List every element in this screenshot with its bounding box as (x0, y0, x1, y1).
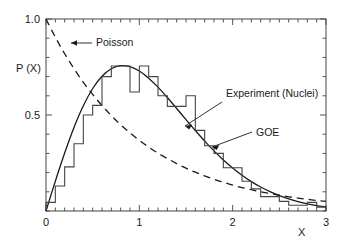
level-spacing-distribution-chart: 0123 0.51.0 Poisson Experiment (Nuclei) … (0, 0, 348, 246)
x-tick-label: 0 (43, 216, 49, 228)
x-tick-label: 2 (230, 216, 236, 228)
poisson-curve (46, 19, 326, 201)
goe-leader-line (212, 132, 252, 147)
y-tick-label: 0.5 (25, 109, 40, 121)
x-tick-label: 1 (136, 216, 142, 228)
experiment-leader-line (185, 102, 222, 126)
y-axis-title: P (X) (16, 62, 41, 74)
poisson-arrowhead (71, 40, 77, 45)
figure-container: 0123 0.51.0 Poisson Experiment (Nuclei) … (0, 0, 348, 246)
annotation-goe-label: GOE (256, 126, 279, 138)
x-tick-label: 3 (323, 216, 329, 228)
y-tick-label: 1.0 (25, 13, 40, 25)
annotation-leaders (71, 40, 252, 150)
x-tick-labels: 0123 (43, 216, 329, 228)
annotation-poisson-label: Poisson (96, 36, 134, 48)
series-group (46, 19, 326, 211)
annotation-experiment-label: Experiment (Nuclei) (226, 87, 318, 99)
x-axis-title: X (298, 226, 306, 238)
